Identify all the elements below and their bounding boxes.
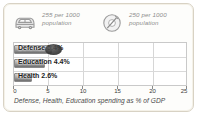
cursor-blob <box>45 44 62 55</box>
gridline-20 <box>153 43 154 85</box>
car-icon <box>12 11 38 33</box>
telephone-icon <box>99 11 125 33</box>
tick-label-15: 15 <box>111 88 125 94</box>
gridline-10 <box>83 43 84 85</box>
tick-label-0: 0 <box>8 88 22 94</box>
tick-label-10: 10 <box>76 88 90 94</box>
tick-label-5: 5 <box>41 88 55 94</box>
chart-caption: Defense, Health, Education spending as %… <box>14 97 192 104</box>
bar-chart-plot: Defense 5.4% Education 4.4% Health 2.6% <box>13 42 187 86</box>
stat-cars-label: 255 per 1000 population <box>42 11 104 26</box>
bar-label-health: Health 2.6% <box>18 72 57 79</box>
stat-phones-label: 250 per 1000 population <box>129 11 191 26</box>
tick-label-25: 25 <box>177 88 191 94</box>
bar-label-education: Education 4.4% <box>18 58 70 65</box>
infographic-card: 255 per 1000 population 250 per 1000 pop… <box>3 3 194 112</box>
stats-row: 255 per 1000 population 250 per 1000 pop… <box>4 8 195 40</box>
tick-label-20: 20 <box>146 88 160 94</box>
gridline-15 <box>118 43 119 85</box>
x-axis: 0 5 10 15 20 25 <box>13 86 187 95</box>
